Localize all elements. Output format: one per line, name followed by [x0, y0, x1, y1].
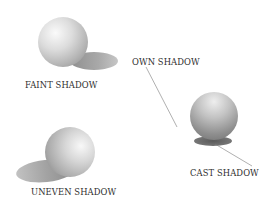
shadow-diagram: FAINT SHADOW UNEVEN SHADOW OWN SHADOW CA…: [0, 0, 274, 208]
sphere-uneven: [45, 127, 95, 177]
sphere-own-cast: [190, 92, 238, 140]
faint-shadow-label: FAINT SHADOW: [25, 81, 98, 89]
faint-shadow-figure: [38, 17, 118, 70]
own-cast-shadow-figure: [190, 92, 238, 146]
sphere-faint: [38, 17, 88, 67]
own-shadow-label: OWN SHADOW: [132, 58, 200, 66]
cast-shadow-label: CAST SHADOW: [190, 169, 259, 177]
cast-shadow-leader-line: [215, 144, 252, 166]
own-shadow-leader-line: [146, 67, 177, 127]
uneven-shadow-figure: [15, 127, 95, 185]
uneven-shadow-label: UNEVEN SHADOW: [31, 188, 116, 196]
